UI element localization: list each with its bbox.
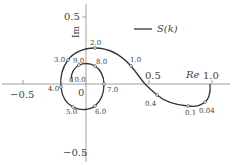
x-axis-label: Re (185, 69, 200, 80)
x-tick-label-half: 0.5 (145, 70, 161, 81)
origin-label: 0 (78, 87, 84, 98)
k-label-3.0: 3.0 (54, 56, 65, 64)
k-label-10.0: 10.0 (70, 76, 86, 84)
k-label-8.0: 8.0 (96, 58, 107, 66)
k-label-6.0: 6.0 (95, 108, 106, 116)
nyquist-chart: −0.5 0.5 1.0 0.5 −0.5 0 Re Im S(k) 0.04 … (0, 0, 232, 165)
k-label-0.4: 0.4 (145, 100, 157, 108)
y-tick-label-pos: 0.5 (64, 11, 80, 22)
y-axis-label: Im (71, 25, 81, 38)
k-label-7.0: 7.0 (107, 86, 118, 94)
k-label-5.0: 5.0 (66, 108, 77, 116)
k-label-9.0: 9.0 (73, 57, 84, 65)
x-tick-label-neg: −0.5 (10, 89, 34, 100)
k-label-0.1: 0.1 (185, 109, 196, 117)
k-label-4.0: 4.0 (48, 85, 59, 93)
y-tick-label-neg: −0.5 (63, 147, 87, 158)
k-label-0.04: 0.04 (199, 107, 215, 115)
x-tick-label-one: 1.0 (203, 70, 219, 81)
legend-label: S(k) (157, 23, 178, 34)
k-label-2.0: 2.0 (90, 39, 101, 47)
k-label-1.0: 1.0 (130, 56, 141, 64)
